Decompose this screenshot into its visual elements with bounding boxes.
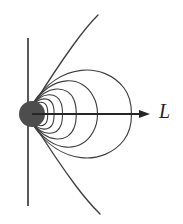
- dipole-field-figure: L: [0, 0, 183, 224]
- axis-label-L: L: [159, 101, 170, 121]
- dipole-field-canvas: [0, 0, 183, 224]
- L-axis-arrow-head: [139, 110, 150, 118]
